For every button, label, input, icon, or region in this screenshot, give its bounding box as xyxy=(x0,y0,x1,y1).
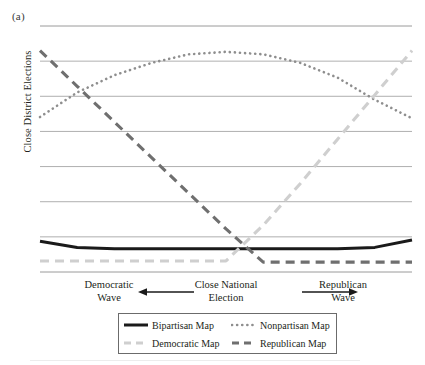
legend-label-bipartisan-map: Bipartisan Map xyxy=(152,320,214,331)
legend-item-democratic-map: Democratic Map xyxy=(119,334,231,352)
legend-label-republican-map: Republican Map xyxy=(260,338,326,349)
scan-artifact xyxy=(30,360,360,361)
legend-swatch-bipartisan-map xyxy=(123,320,149,330)
legend-swatch-democratic-map xyxy=(123,338,149,348)
legend-swatch-nonpartisan-map xyxy=(231,320,257,330)
series-layer xyxy=(40,51,412,263)
legend-label-democratic-map: Democratic Map xyxy=(152,338,219,349)
x-label-democratic-wave-line1: Democratic xyxy=(85,279,134,290)
plot-area xyxy=(40,26,412,272)
series-line-republican-map xyxy=(40,51,412,263)
x-label-republican-wave: Republican Wave xyxy=(288,278,398,304)
x-axis-annotations: Democratic Wave Close National Election … xyxy=(40,276,412,310)
chart-legend: Bipartisan Map Nonpartisan Map Democrati… xyxy=(118,313,337,354)
x-label-close-national-election-line1: Close National xyxy=(195,279,258,290)
legend-item-republican-map: Republican Map xyxy=(231,334,336,352)
chart-canvas xyxy=(40,26,412,272)
y-axis-title: Close District Elections xyxy=(22,12,33,192)
legend-swatch-republican-map xyxy=(231,338,257,348)
legend-item-nonpartisan-map: Nonpartisan Map xyxy=(231,316,336,334)
legend-row: Bipartisan Map Nonpartisan Map xyxy=(119,316,336,334)
legend-item-bipartisan-map: Bipartisan Map xyxy=(119,316,231,334)
gridlines xyxy=(40,26,412,272)
x-label-close-national-election-line2: Election xyxy=(171,291,281,304)
legend-row: Democratic Map Republican Map xyxy=(119,334,336,352)
legend-label-nonpartisan-map: Nonpartisan Map xyxy=(260,320,330,331)
x-label-republican-wave-line2: Wave xyxy=(288,291,398,304)
series-line-bipartisan-map xyxy=(40,240,412,249)
x-label-republican-wave-line1: Republican xyxy=(319,279,367,290)
series-line-nonpartisan-map xyxy=(40,52,412,118)
x-label-close-national-election: Close National Election xyxy=(171,278,281,304)
